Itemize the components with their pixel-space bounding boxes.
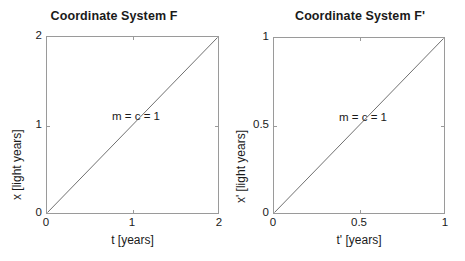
ytick-right-left-1 <box>215 126 218 127</box>
xtick-label-left-1: 1 <box>118 216 146 228</box>
xtick-label-left-2: 2 <box>205 216 233 228</box>
xtick-label-right-2: 1 <box>431 216 459 228</box>
xtick-right-1 <box>360 210 361 213</box>
annotation-slope-right: m = c = 1 <box>339 111 387 123</box>
xaxis-title-left: t [years] <box>46 233 219 247</box>
ytick-left-1 <box>47 126 50 127</box>
xtick-label-left-0: 0 <box>32 216 60 228</box>
ytick-label-left-2: 2 <box>14 29 42 41</box>
annotation-slope-left: m = c = 1 <box>112 110 160 122</box>
xaxis-title-right: t' [years] <box>273 233 445 247</box>
ytick-right-right-1 <box>441 126 444 127</box>
chart-title-right: Coordinate System F' <box>260 9 460 23</box>
yaxis-title-right: x' [light years] <box>234 130 248 203</box>
chart-panel-coordinate-system-f: Coordinate System F m = c = 1 2 1 0 0 1 … <box>0 0 232 261</box>
plot-area-right: m = c = 1 <box>273 37 445 214</box>
yaxis-title-left: x [light years] <box>10 129 24 200</box>
xtick-label-right-0: 0 <box>259 216 287 228</box>
chart-panel-coordinate-system-f-prime: Coordinate System F' m = c = 1 1 0.5 0 0… <box>232 0 465 261</box>
xtick-top-right-1 <box>360 38 361 41</box>
plot-area-left: m = c = 1 <box>46 36 219 214</box>
chart-title-left: Coordinate System F <box>14 9 214 23</box>
figure-two-panel-spacetime-plots: Coordinate System F m = c = 1 2 1 0 0 1 … <box>0 0 465 261</box>
line-series-worldline <box>274 38 443 212</box>
worldline-left <box>47 37 218 213</box>
ytick-label-right-1: 0.5 <box>237 118 269 130</box>
ytick-label-left-1: 1 <box>14 118 42 130</box>
worldline-right <box>274 38 444 213</box>
line-series-worldline <box>47 37 217 212</box>
xtick-label-right-1: 0.5 <box>345 216 373 228</box>
xtick-left-1 <box>133 210 134 213</box>
xtick-top-left-1 <box>133 37 134 40</box>
ytick-label-right-2: 1 <box>237 30 269 42</box>
ytick-right-1 <box>274 126 277 127</box>
